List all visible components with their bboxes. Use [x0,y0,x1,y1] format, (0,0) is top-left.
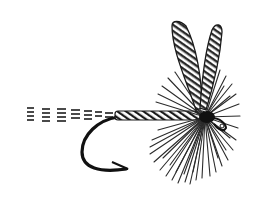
tail [27,107,113,122]
wings [172,22,222,111]
hook [82,117,128,170]
fly-illustration: Dry fly fishing lure illustration [0,0,260,202]
hook-eye [220,124,224,128]
